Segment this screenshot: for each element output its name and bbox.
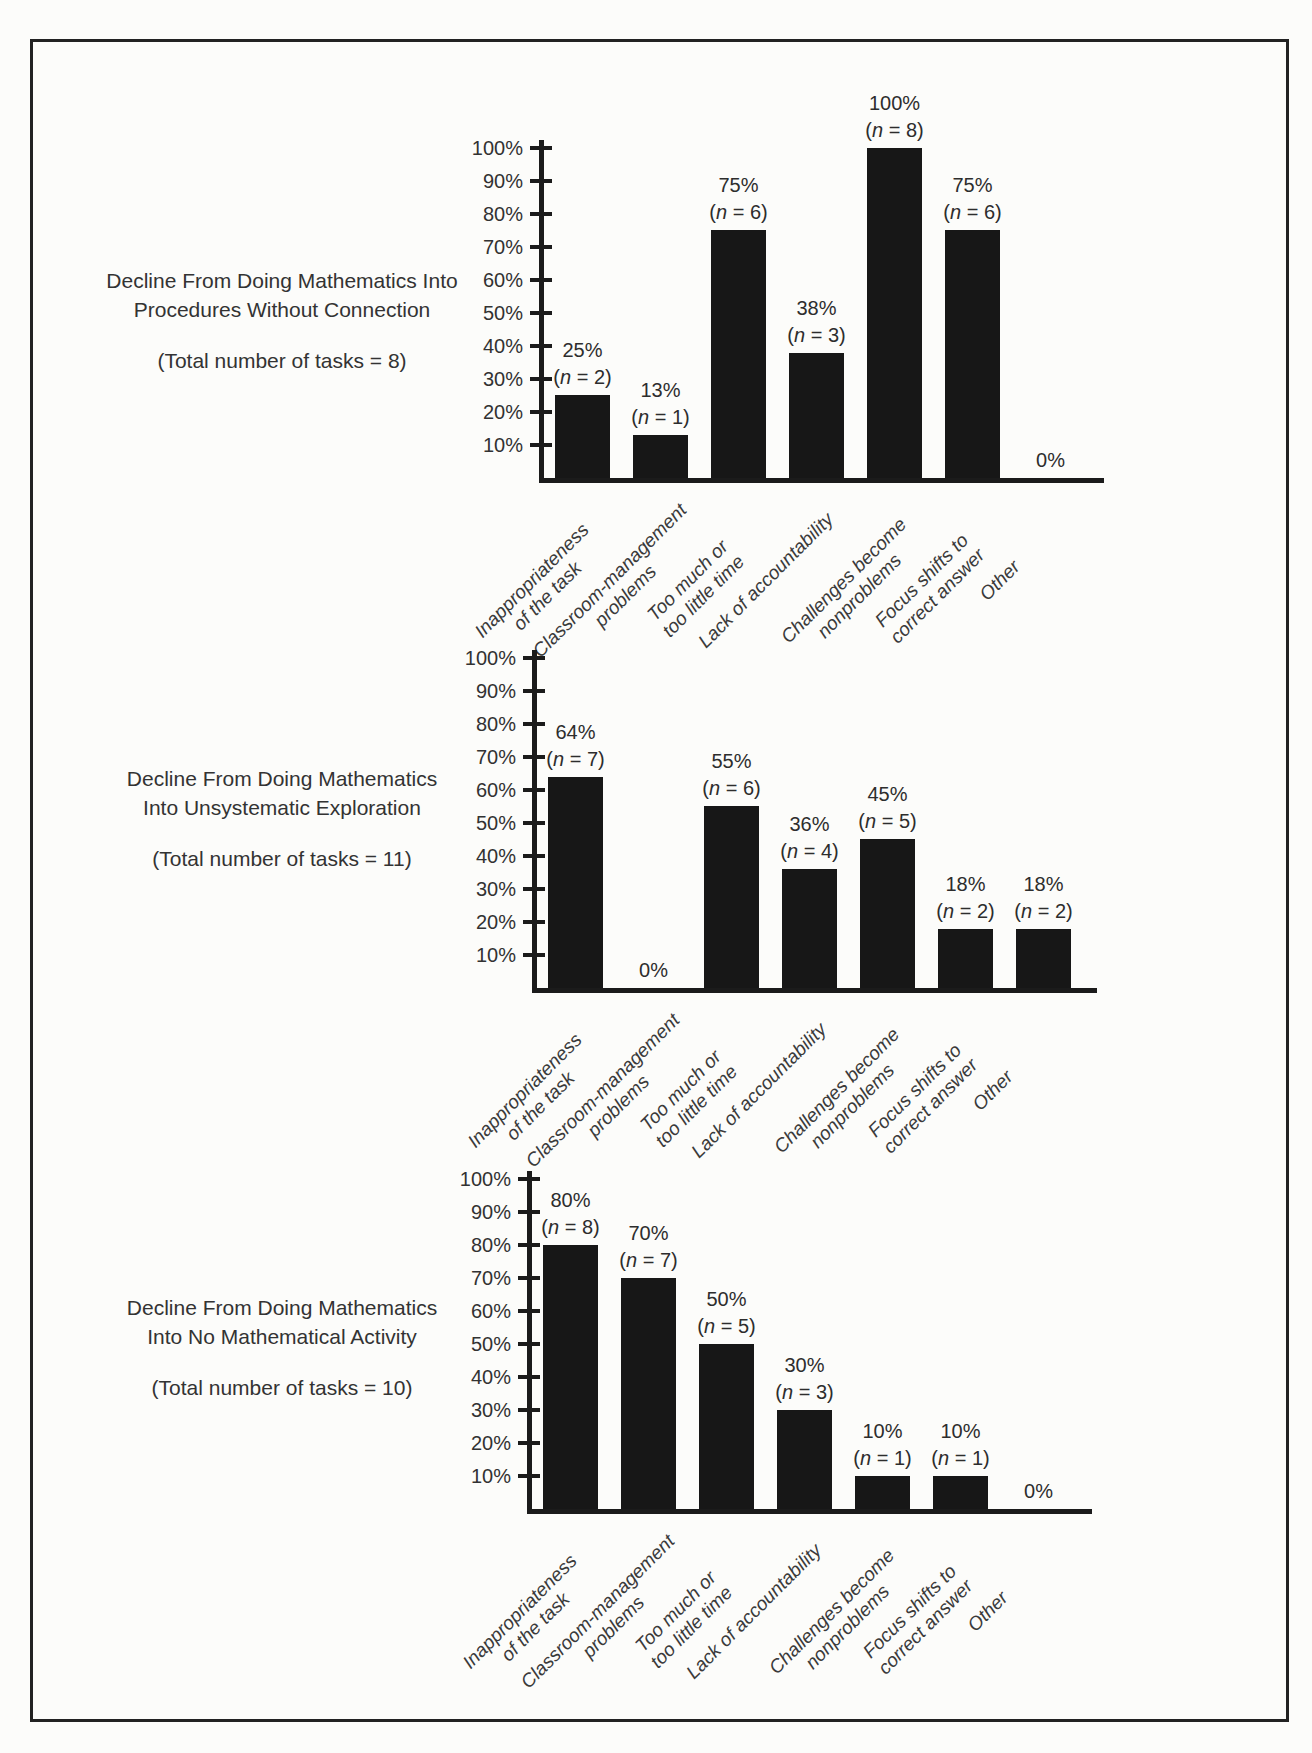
bar <box>1016 929 1071 988</box>
bar-count-text: (n = 3) <box>747 322 887 349</box>
bar-count-text: (n = 5) <box>818 808 958 835</box>
y-tick <box>530 146 552 150</box>
y-tick-label: 100% <box>428 645 516 671</box>
n-symbol: n <box>782 1381 793 1403</box>
bar-percent-text: 75% <box>903 172 1043 199</box>
bar-percent-text: 30% <box>735 1352 875 1379</box>
y-axis <box>532 650 537 988</box>
x-axis <box>532 988 1097 993</box>
y-tick <box>518 1243 540 1247</box>
bar-count-text: (n = 3) <box>735 1379 875 1406</box>
bar-value-label: 100%(n = 8) <box>825 90 965 144</box>
bar-value-label: 45%(n = 5) <box>818 781 958 835</box>
n-symbol: n <box>716 201 727 223</box>
bar-percent-text: 80% <box>501 1187 641 1214</box>
bar-percent-text: 100% <box>825 90 965 117</box>
n-symbol: n <box>794 324 805 346</box>
y-tick <box>518 1342 540 1346</box>
bar <box>789 353 844 478</box>
y-tick <box>523 854 545 858</box>
n-symbol: n <box>943 900 954 922</box>
y-tick <box>518 1177 540 1181</box>
y-tick <box>518 1375 540 1379</box>
bar <box>633 435 688 478</box>
y-tick <box>530 245 552 249</box>
y-tick-label: 70% <box>428 744 516 770</box>
n-symbol: n <box>553 748 564 770</box>
bar-value-label: 70%(n = 7) <box>579 1220 719 1274</box>
y-tick-label: 90% <box>435 168 523 194</box>
bar-percent-text: 64% <box>506 719 646 746</box>
bar-value-label: 38%(n = 3) <box>747 295 887 349</box>
y-tick-label: 10% <box>435 432 523 458</box>
y-tick-label: 70% <box>435 234 523 260</box>
bar-count-text: (n = 5) <box>657 1313 797 1340</box>
y-tick-label: 20% <box>435 399 523 425</box>
y-tick <box>523 821 545 825</box>
bar-percent-text: 50% <box>657 1286 797 1313</box>
y-tick-label: 100% <box>423 1166 511 1192</box>
n-symbol: n <box>787 840 798 862</box>
bar-value-label: 13%(n = 1) <box>591 377 731 431</box>
y-tick-label: 30% <box>428 876 516 902</box>
bar-percent-text: 0% <box>981 447 1121 474</box>
y-tick-label: 50% <box>435 300 523 326</box>
y-tick <box>523 788 545 792</box>
n-symbol: n <box>704 1315 715 1337</box>
bar-percent-text: 45% <box>818 781 958 808</box>
y-tick-label: 30% <box>435 366 523 392</box>
y-axis <box>539 140 544 478</box>
y-tick-label: 20% <box>428 909 516 935</box>
bar-value-label: 10%(n = 1) <box>891 1418 1031 1472</box>
y-tick-label: 40% <box>423 1364 511 1390</box>
y-tick-label: 10% <box>423 1463 511 1489</box>
bar-count-text: (n = 1) <box>591 404 731 431</box>
y-tick <box>523 656 545 660</box>
bar-value-label: 64%(n = 7) <box>506 719 646 773</box>
n-symbol: n <box>709 777 720 799</box>
bar-percent-text: 55% <box>662 748 802 775</box>
bar-count-text: (n = 1) <box>891 1445 1031 1472</box>
y-tick <box>518 1276 540 1280</box>
y-tick <box>530 278 552 282</box>
y-tick <box>518 1441 540 1445</box>
bar-count-text: (n = 6) <box>903 199 1043 226</box>
y-tick <box>518 1408 540 1412</box>
bar <box>543 1245 598 1509</box>
y-tick <box>518 1309 540 1313</box>
bar-value-label: 75%(n = 6) <box>903 172 1043 226</box>
bar-value-label: 0% <box>969 1478 1109 1505</box>
y-tick <box>530 179 552 183</box>
y-tick-label: 20% <box>423 1430 511 1456</box>
y-tick-label: 80% <box>423 1232 511 1258</box>
y-tick <box>530 443 552 447</box>
n-symbol: n <box>560 366 571 388</box>
n-symbol: n <box>865 810 876 832</box>
bar-value-label: 30%(n = 3) <box>735 1352 875 1406</box>
bar-percent-text: 75% <box>669 172 809 199</box>
bar <box>711 230 766 478</box>
bar <box>855 1476 910 1509</box>
bar-count-text: (n = 8) <box>825 117 965 144</box>
n-symbol: n <box>1021 900 1032 922</box>
n-symbol: n <box>938 1447 949 1469</box>
bar-count-text: (n = 7) <box>579 1247 719 1274</box>
y-tick-label: 90% <box>428 678 516 704</box>
bar-value-label: 75%(n = 6) <box>669 172 809 226</box>
y-tick <box>523 953 545 957</box>
y-tick-label: 70% <box>423 1265 511 1291</box>
y-tick-label: 80% <box>428 711 516 737</box>
bar-count-text: (n = 7) <box>506 746 646 773</box>
y-tick <box>523 689 545 693</box>
bar <box>938 929 993 988</box>
bar-percent-text: 18% <box>974 871 1114 898</box>
y-tick-label: 10% <box>428 942 516 968</box>
x-axis <box>527 1509 1092 1514</box>
y-tick-label: 50% <box>423 1331 511 1357</box>
y-tick-label: 60% <box>428 777 516 803</box>
bar-count-text: (n = 2) <box>974 898 1114 925</box>
n-symbol: n <box>860 1447 871 1469</box>
y-tick-label: 80% <box>435 201 523 227</box>
bar-percent-text: 25% <box>513 337 653 364</box>
y-tick-label: 90% <box>423 1199 511 1225</box>
